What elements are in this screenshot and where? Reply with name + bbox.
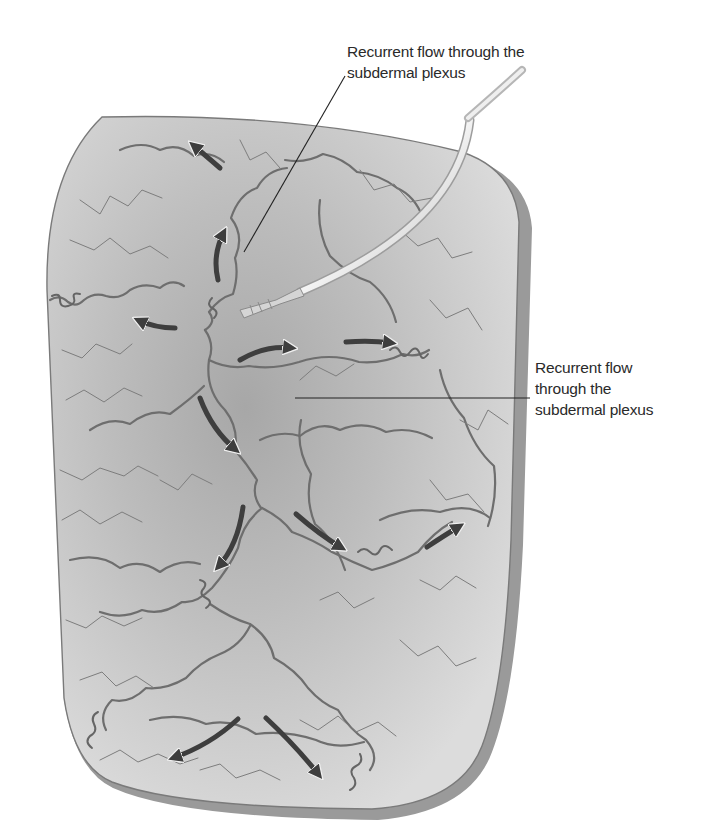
annotation-line: subdermal plexus: [535, 399, 653, 420]
annotation-line: subdermal plexus: [347, 62, 524, 83]
annotation-recurrent-flow-top: Recurrent flow through the subdermal ple…: [347, 41, 524, 83]
annotation-line: Recurrent flow: [535, 357, 653, 378]
flap-surface: [47, 116, 519, 809]
annotation-line: Recurrent flow through the: [347, 41, 524, 62]
annotation-line: through the: [535, 378, 653, 399]
arrow-right-2: [346, 341, 392, 343]
annotation-recurrent-flow-right: Recurrent flow through the subdermal ple…: [535, 357, 653, 420]
